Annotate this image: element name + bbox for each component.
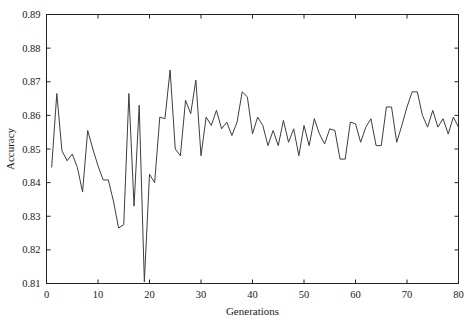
y-tick-label: 0.87 <box>22 76 40 87</box>
x-tick-label: 80 <box>453 289 464 300</box>
x-tick-label: 10 <box>93 289 104 300</box>
accuracy-vs-generations-chart: 01020304050607080 0.810.820.830.840.850.… <box>0 0 474 319</box>
y-tick-label: 0.82 <box>22 244 40 255</box>
y-axis-title: Accuracy <box>4 127 16 170</box>
y-tick-label: 0.84 <box>22 177 41 188</box>
series-group <box>52 70 459 282</box>
x-tick-label: 70 <box>402 289 413 300</box>
x-tick-label: 0 <box>44 289 49 300</box>
y-axis-ticks: 0.810.820.830.840.850.860.870.880.89 <box>22 9 458 289</box>
x-axis-ticks: 01020304050607080 <box>44 15 464 300</box>
chart-canvas: 01020304050607080 0.810.820.830.840.850.… <box>0 0 474 319</box>
y-tick-label: 0.85 <box>22 144 40 155</box>
accuracy-line <box>52 70 459 282</box>
y-tick-label: 0.89 <box>22 9 40 20</box>
y-tick-label: 0.86 <box>22 110 40 121</box>
x-tick-label: 20 <box>144 289 155 300</box>
plot-frame <box>47 15 459 284</box>
plot-frame-rect <box>47 15 459 284</box>
x-axis-title: Generations <box>226 305 279 317</box>
x-tick-label: 30 <box>196 289 207 300</box>
x-tick-label: 40 <box>247 289 258 300</box>
x-tick-label: 50 <box>299 289 310 300</box>
x-tick-label: 60 <box>350 289 361 300</box>
y-tick-label: 0.81 <box>22 278 40 289</box>
y-tick-label: 0.83 <box>22 211 40 222</box>
y-tick-label: 0.88 <box>22 43 40 54</box>
